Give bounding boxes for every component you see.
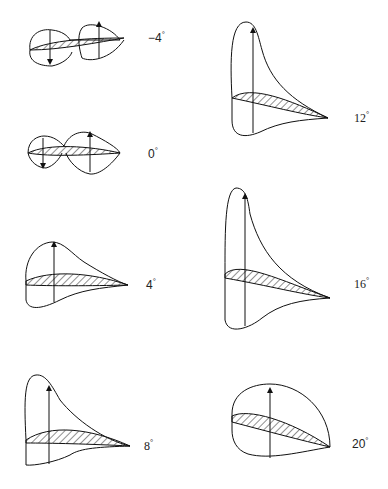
airfoil xyxy=(232,414,330,447)
panel-8 xyxy=(25,375,130,465)
angle-label-16: 16° xyxy=(354,276,369,292)
airfoil xyxy=(26,430,130,446)
airfoil xyxy=(232,93,328,118)
pressure-envelope xyxy=(231,22,328,136)
pressure-envelope xyxy=(225,188,330,329)
angle-label-4: 4° xyxy=(146,277,156,292)
airfoil xyxy=(225,269,330,298)
angle-label-8: 8° xyxy=(144,438,153,454)
angle-label-0: 0° xyxy=(148,146,158,161)
pressure-envelope xyxy=(25,375,130,465)
airfoil xyxy=(28,147,120,156)
airfoil xyxy=(26,274,128,286)
panel-0 xyxy=(28,132,120,174)
panel-16 xyxy=(225,188,330,329)
panel-12 xyxy=(231,22,328,136)
angle-label-20: 20° xyxy=(352,436,369,451)
pressure-envelope-lower xyxy=(30,50,72,66)
panel-4 xyxy=(26,242,128,308)
panel-minus4 xyxy=(30,24,124,66)
diagram-canvas xyxy=(0,0,388,489)
panel-20 xyxy=(232,384,330,458)
angle-label-12: 12° xyxy=(354,110,369,126)
angle-label-minus4: −4° xyxy=(148,30,165,45)
airfoil xyxy=(30,38,124,50)
